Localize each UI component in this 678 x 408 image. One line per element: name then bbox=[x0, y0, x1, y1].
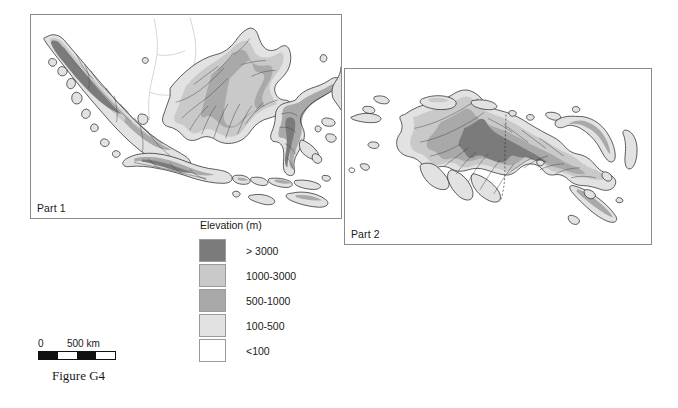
part-2-map-graphic bbox=[345, 69, 651, 244]
scale-bar: 0 500 km bbox=[38, 338, 116, 360]
scale-segment bbox=[96, 352, 115, 359]
part-1-map-graphic bbox=[31, 15, 341, 218]
scale-bar-graphic bbox=[38, 351, 116, 360]
legend-label: 500-1000 bbox=[246, 295, 290, 307]
legend-swatch bbox=[199, 314, 226, 337]
legend-title: Elevation (m) bbox=[200, 219, 296, 232]
legend-label: <100 bbox=[246, 345, 270, 357]
legend-row: <100 bbox=[199, 339, 296, 362]
part-1-label: Part 1 bbox=[37, 202, 66, 214]
islands-java-lesser-sunda bbox=[123, 153, 331, 207]
figure-caption: Figure G4 bbox=[52, 368, 105, 384]
island-borneo bbox=[163, 28, 291, 143]
part-2-label: Part 2 bbox=[351, 228, 380, 240]
legend-row: 1000-3000 bbox=[199, 264, 296, 287]
legend-swatch bbox=[199, 289, 226, 312]
legend-row: > 3000 bbox=[199, 239, 296, 262]
islands-central-islets bbox=[138, 58, 148, 125]
scale-segment bbox=[39, 352, 58, 359]
legend-swatch bbox=[199, 339, 226, 362]
legend-label: > 3000 bbox=[246, 245, 278, 257]
scale-tick-start: 0 bbox=[38, 338, 44, 350]
legend-swatch bbox=[199, 239, 226, 262]
scale-bar-ticks: 0 500 km bbox=[38, 338, 116, 351]
legend-row: 100-500 bbox=[199, 314, 296, 337]
elevation-legend: Elevation (m) > 3000 1000-3000 500-1000 … bbox=[199, 219, 296, 364]
island-new-guinea bbox=[397, 90, 617, 222]
scale-segment bbox=[58, 352, 77, 359]
scale-tick-end: 500 km bbox=[67, 338, 100, 350]
map-panel-part-1: Part 1 bbox=[30, 14, 342, 219]
legend-label: 1000-3000 bbox=[246, 270, 296, 282]
scale-segment bbox=[77, 352, 96, 359]
map-panel-part-2: Part 2 bbox=[344, 68, 652, 245]
legend-swatch bbox=[199, 264, 226, 287]
legend-row: 500-1000 bbox=[199, 289, 296, 312]
legend-label: 100-500 bbox=[246, 320, 285, 332]
